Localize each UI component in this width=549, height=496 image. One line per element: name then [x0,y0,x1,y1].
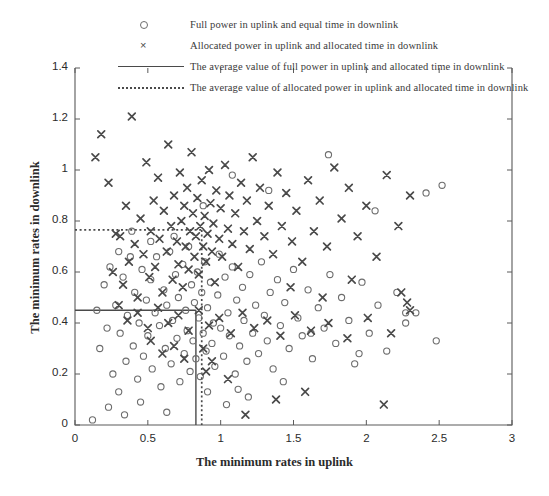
legend-item-allocated-power: × Allocated power in uplink and allocate… [118,35,538,56]
x-tick-label: 1 [201,432,241,444]
solid-line-icon [118,66,184,67]
data-points-layer [89,113,445,423]
legend-label-allocated-power: Allocated power in uplink and allocated … [190,40,438,51]
x-tick-label: 0.5 [128,432,168,444]
x-tick-label: 2.5 [419,432,459,444]
axes-layer [75,68,512,425]
legend-key-solid-line [118,66,190,67]
x-tick-label: 3 [492,432,532,444]
x-tick-label: 2 [346,432,386,444]
dotted-line-icon [118,87,184,89]
reference-lines-layer [75,230,202,425]
circle-marker-icon [140,21,148,29]
legend-label-full-power: Full power in uplink and equal time in d… [190,19,398,30]
x-axis-title: The minimum rates in uplink [0,455,549,470]
y-axis-title: The minimum rates in downlink [28,68,43,428]
series-cross [92,113,413,418]
legend-key-cross: × [118,40,190,51]
legend-key-circle [118,21,190,29]
scatter-plot-figure: Full power in uplink and equal time in d… [0,0,549,496]
x-tick-label: 1.5 [274,432,314,444]
legend-key-dotted-line [118,87,190,89]
legend-label-avg-full-power: The average value of full power in uplin… [190,61,505,72]
legend-item-avg-allocated-power: The average value of allocated power in … [118,77,538,98]
series-circle [89,152,445,423]
legend-label-avg-allocated-power: The average value of allocated power in … [190,82,528,93]
cross-marker-icon: × [140,40,146,51]
legend-item-avg-full-power: The average value of full power in uplin… [118,56,538,77]
legend-item-full-power: Full power in uplink and equal time in d… [118,14,538,35]
tick-marks-layer [75,68,512,425]
x-tick-label: 0 [55,432,95,444]
chart-legend: Full power in uplink and equal time in d… [118,14,538,98]
